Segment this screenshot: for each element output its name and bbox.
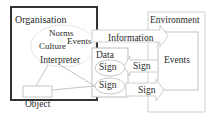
- sign-in-label: Sign: [133, 62, 150, 72]
- interpreter-label: Interpreter: [40, 56, 80, 66]
- sign-top-label: Sign: [99, 63, 116, 73]
- information-label: Information: [108, 34, 153, 44]
- data-label: Data: [96, 51, 114, 61]
- object-label: Object: [25, 100, 50, 110]
- interpreter-sign-line: [60, 65, 95, 86]
- interpreter-object-line: [36, 65, 48, 86]
- environment-label: Environment: [150, 16, 200, 26]
- culture-label: Culture: [39, 42, 66, 51]
- organisation-label: Organisation: [15, 15, 66, 25]
- ellipse-events-label: Events: [67, 37, 92, 46]
- object-sign-line: [52, 86, 95, 90]
- object-box: [23, 86, 52, 97]
- sign-bottom-label: Sign: [99, 81, 116, 91]
- sign-out-label: Sign: [138, 86, 155, 96]
- environment-events-label: Events: [164, 56, 190, 66]
